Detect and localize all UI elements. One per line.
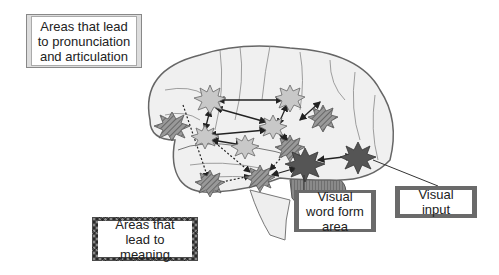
- label-text: Areas that lead to pronunciation and art…: [31, 16, 137, 66]
- label-pronunciation-articulation: Areas that lead to pronunciation and art…: [26, 14, 142, 68]
- label-text: Visual input: [400, 190, 472, 214]
- label-visual-input: Visual input: [395, 186, 477, 218]
- brainstem: [250, 190, 290, 240]
- label-text: Areas that lead to meaning: [98, 221, 192, 257]
- label-visual-word-form-area: Visual word form area: [294, 190, 376, 232]
- label-meaning: Areas that lead to meaning: [92, 217, 198, 261]
- label-text: Visual word form area: [299, 193, 371, 229]
